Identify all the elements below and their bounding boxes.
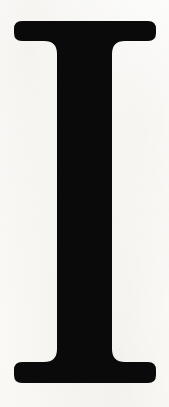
scanned-page: I: [0, 0, 169, 407]
letter-glyph-layer: [0, 0, 169, 407]
capital-i-path: [14, 21, 156, 383]
capital-i-glyph: [0, 0, 169, 407]
